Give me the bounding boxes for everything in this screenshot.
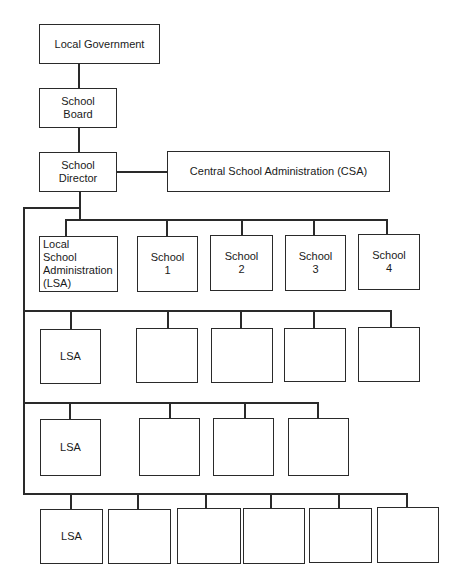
school-board-label: School Board [61,95,95,121]
connector [205,493,207,509]
lsa-label: Local School Administration (LSA) [43,238,113,290]
lsa-label: LSA [60,441,81,454]
school-box [211,328,273,383]
lsa-label: LSA [61,530,82,543]
connector [167,310,169,328]
school-box: School 4 [358,234,420,290]
connector [69,402,71,419]
school-label: School 2 [225,250,259,276]
row4-bus [23,493,408,495]
connector [406,493,408,508]
csa-label: Central School Administration (CSA) [190,165,367,178]
lsa-label: LSA [60,350,81,363]
connector [313,310,315,328]
connector [117,171,167,173]
connector [70,493,72,509]
csa-box: Central School Administration (CSA) [167,151,390,192]
row1-bus [65,219,387,221]
connector [338,493,340,509]
school-box [213,418,274,476]
school-director-label: School Director [59,159,98,185]
school-box: School 3 [285,235,346,291]
school-box [377,507,439,563]
school-box [139,418,200,476]
school-box [136,328,198,383]
school-box: School 2 [210,235,273,291]
connector [79,192,81,220]
connector [70,310,72,329]
local-government-label: Local Government [55,38,145,51]
school-box [108,509,171,564]
school-label: School 1 [151,251,185,277]
lsa-box: LSA [40,509,103,564]
school-box [177,508,241,564]
connector [241,219,243,235]
row3-bus [23,402,319,404]
row2-bus [23,310,392,312]
connector [313,219,315,235]
school-box [309,508,372,563]
connector [137,493,139,509]
lsa-box: Local School Administration (LSA) [39,236,118,292]
connector [240,310,242,328]
connector [166,219,168,236]
school-box [243,508,305,564]
connector [169,402,171,419]
connector [244,402,246,419]
connector [386,219,388,235]
connector [23,207,80,209]
school-box: School 1 [137,236,198,292]
school-box [284,328,346,382]
lsa-box: LSA [40,329,101,384]
local-government-box: Local Government [39,24,160,64]
school-label: School 4 [372,249,406,275]
school-box [288,418,349,476]
connector [78,128,80,152]
connector [390,310,392,328]
school-box [358,327,420,382]
school-board-box: School Board [39,88,117,128]
school-director-box: School Director [39,152,117,192]
school-label: School 3 [299,250,333,276]
connector [78,64,80,88]
left-trunk [23,207,25,494]
connector [317,402,319,419]
connector [270,493,272,509]
lsa-box: LSA [40,419,101,476]
connector [65,219,67,236]
